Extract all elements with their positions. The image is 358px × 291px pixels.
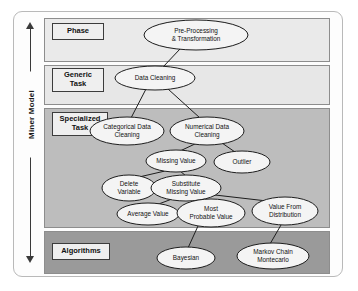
- down-arrow-icon: [26, 256, 34, 263]
- band-label-phase: Phase: [52, 23, 104, 40]
- band-label-special-line2: Task: [72, 123, 89, 132]
- axis-label: Miner Model: [25, 72, 38, 158]
- band-label-algorithms: Algorithms: [52, 243, 110, 260]
- diagram-root: Miner Model Phase Generic Task Specializ…: [0, 0, 358, 291]
- band-label-specialized-task: Specialized Task: [52, 112, 108, 136]
- band-label-generic-line2: Task: [70, 79, 87, 88]
- band-label-generic-task: Generic Task: [52, 68, 104, 92]
- miner-model-axis: Miner Model: [21, 20, 41, 270]
